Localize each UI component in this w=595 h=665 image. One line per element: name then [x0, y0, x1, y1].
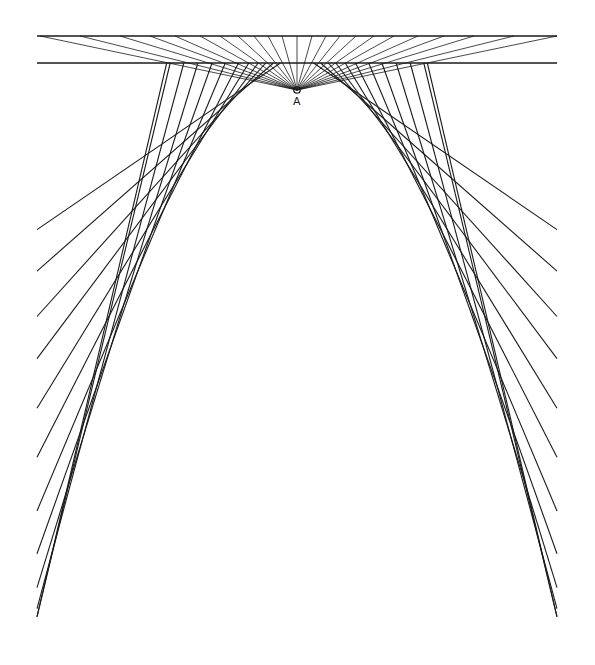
tangent-line	[345, 63, 557, 408]
tangent-line	[37, 63, 249, 408]
tangent-line	[37, 63, 212, 554]
tangent-line	[37, 63, 273, 271]
tangent-lines	[37, 63, 557, 617]
tangent-line	[37, 63, 239, 457]
tangent-line	[396, 63, 557, 588]
tangent-line	[328, 63, 557, 317]
tangent-line	[369, 63, 557, 511]
focus-label: A	[293, 95, 301, 108]
tangent-line	[427, 63, 557, 617]
tangent-line	[382, 63, 557, 554]
tangent-line	[336, 63, 557, 359]
tangent-line	[37, 63, 266, 317]
tangent-line	[37, 63, 280, 230]
tangent-line	[37, 63, 198, 588]
